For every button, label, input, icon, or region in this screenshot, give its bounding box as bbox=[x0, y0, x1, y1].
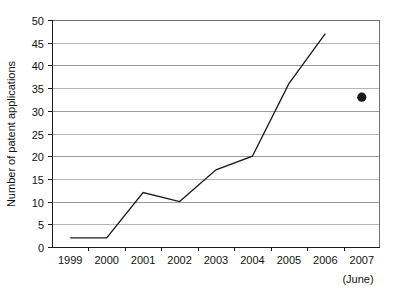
patent-applications-line-chart: 199920002001200220032004200520062007 051… bbox=[0, 0, 393, 298]
y-tick-label-40: 40 bbox=[32, 60, 44, 72]
y-tick-label-15: 15 bbox=[32, 174, 44, 186]
y-tick-label-10: 10 bbox=[32, 197, 44, 209]
data-point-2007-33 bbox=[357, 93, 366, 102]
x-tick-label-2003: 2003 bbox=[204, 254, 228, 266]
y-tick-label-45: 45 bbox=[32, 38, 44, 50]
y-tick-label-5: 5 bbox=[38, 219, 44, 231]
x-tick-label-2007: 2007 bbox=[350, 254, 374, 266]
y-tick-label-35: 35 bbox=[32, 83, 44, 95]
y-axis-title: Number of patent applications bbox=[5, 60, 17, 207]
x-axis-note-june: (June) bbox=[342, 273, 373, 285]
y-tick-label-20: 20 bbox=[32, 151, 44, 163]
y-tick-label-50: 50 bbox=[32, 15, 44, 27]
y-tick-label-30: 30 bbox=[32, 106, 44, 118]
y-tick-label-25: 25 bbox=[32, 129, 44, 141]
y-tick-label-0: 0 bbox=[38, 242, 44, 254]
x-tick-label-2001: 2001 bbox=[131, 254, 155, 266]
x-tick-label-2006: 2006 bbox=[313, 254, 337, 266]
x-axis-tick-labels-group: 199920002001200220032004200520062007 bbox=[58, 254, 374, 266]
x-tick-label-2002: 2002 bbox=[167, 254, 191, 266]
chart-canvas: 199920002001200220032004200520062007 051… bbox=[0, 0, 393, 298]
x-tick-label-2000: 2000 bbox=[94, 254, 118, 266]
x-tick-label-2005: 2005 bbox=[277, 254, 301, 266]
x-tick-label-1999: 1999 bbox=[58, 254, 82, 266]
x-tick-label-2004: 2004 bbox=[240, 254, 264, 266]
